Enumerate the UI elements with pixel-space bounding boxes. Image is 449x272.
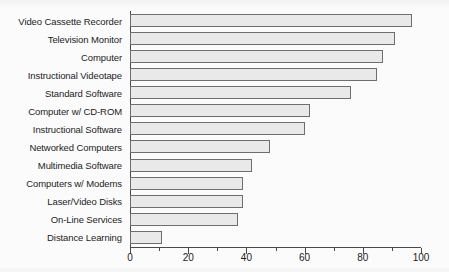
x-tick-label: 60 [299, 252, 310, 263]
bar-row [130, 211, 421, 229]
category-label: Television Monitor [0, 30, 126, 48]
bar-chart: Video Cassette RecorderTelevision Monito… [0, 0, 449, 272]
x-tick-minor [159, 248, 160, 251]
bar-row [130, 193, 421, 211]
bar-row [130, 66, 421, 84]
category-label: Computer w/ CD-ROM [0, 102, 126, 120]
bar-row [130, 229, 421, 247]
x-tick-label: 0 [127, 252, 133, 263]
category-label: Computer [0, 48, 126, 66]
bar [130, 213, 238, 226]
x-tick-label: 80 [357, 252, 368, 263]
x-axis-tick-labels: 020406080100 [0, 252, 449, 270]
category-axis-labels: Video Cassette RecorderTelevision Monito… [0, 12, 126, 247]
x-tick-minor [392, 248, 393, 251]
scan-artifact-top [0, 0, 449, 9]
category-label: Networked Computers [0, 138, 126, 156]
bar [130, 86, 351, 99]
bar [130, 231, 162, 244]
category-label: Instructional Videotape [0, 66, 126, 84]
x-tick-label: 20 [183, 252, 194, 263]
bar [130, 195, 243, 208]
bar-row [130, 102, 421, 120]
bar [130, 104, 310, 117]
bar-row [130, 120, 421, 138]
category-label: Instructional Software [0, 120, 126, 138]
bar-row [130, 30, 421, 48]
category-label: On-Line Services [0, 211, 126, 229]
bar-row [130, 12, 421, 30]
bar [130, 32, 395, 45]
bar [130, 177, 243, 190]
bar-row [130, 48, 421, 66]
category-label: Distance Learning [0, 229, 126, 247]
x-tick-minor [334, 248, 335, 251]
x-tick-label: 40 [241, 252, 252, 263]
x-tick-minor [217, 248, 218, 251]
plot-area [130, 12, 421, 247]
bar-row [130, 84, 421, 102]
bar [130, 159, 252, 172]
bar-row [130, 175, 421, 193]
category-label: Video Cassette Recorder [0, 12, 126, 30]
category-label: Laser/Video Disks [0, 193, 126, 211]
bar [130, 14, 412, 27]
bar-row [130, 157, 421, 175]
bar [130, 50, 383, 63]
category-label: Standard Software [0, 84, 126, 102]
bar-series [130, 12, 421, 247]
x-tick-label: 100 [413, 252, 430, 263]
bar [130, 68, 377, 81]
category-label: Computers w/ Modems [0, 175, 126, 193]
bar [130, 122, 305, 135]
category-label: Multimedia Software [0, 157, 126, 175]
bar [130, 140, 270, 153]
bar-row [130, 138, 421, 156]
x-tick-minor [276, 248, 277, 251]
